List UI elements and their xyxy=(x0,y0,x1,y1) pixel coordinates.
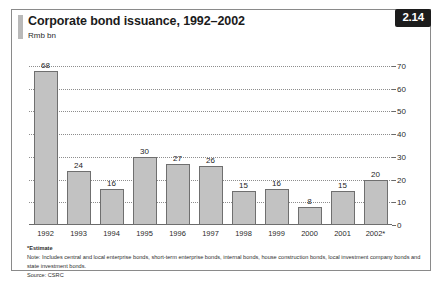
x-axis-ticks: 1992199319941995199619971998199920002001… xyxy=(29,229,392,238)
bar xyxy=(34,71,58,225)
bar xyxy=(100,189,124,225)
footnotes: *Estimate Note: Includes central and loc… xyxy=(27,244,422,280)
bar-value-label: 26 xyxy=(206,156,215,165)
page-title: Corporate bond issuance, 1992–2002 xyxy=(28,14,245,28)
y-tick-label: 0 xyxy=(397,221,401,230)
bar-group: 20 xyxy=(359,66,392,225)
bar-value-label: 24 xyxy=(74,161,83,170)
title-accent-bar xyxy=(18,15,23,39)
bar xyxy=(331,191,355,225)
x-tick-label: 1994 xyxy=(95,229,128,238)
bar-group: 16 xyxy=(260,66,293,225)
bar-group: 16 xyxy=(95,66,128,225)
x-tick-label: 1998 xyxy=(227,229,260,238)
bar xyxy=(232,191,256,225)
y-tick-mark xyxy=(392,89,396,90)
footnote-estimate: *Estimate xyxy=(27,244,422,253)
bar xyxy=(166,164,190,225)
bar-value-label: 27 xyxy=(173,154,182,163)
bar-group: 15 xyxy=(326,66,359,225)
bar-group: 27 xyxy=(161,66,194,225)
x-tick-label: 2002* xyxy=(359,229,392,238)
footnote-source: Source: CSRC xyxy=(27,271,422,280)
bar-value-label: 8 xyxy=(307,197,311,206)
y-tick-mark xyxy=(392,225,396,226)
bar-value-label: 15 xyxy=(239,181,248,190)
x-tick-label: 1992 xyxy=(29,229,62,238)
bar-value-label: 16 xyxy=(107,179,116,188)
bar xyxy=(364,180,388,225)
y-tick-label: 20 xyxy=(397,175,406,184)
y-tick-label: 40 xyxy=(397,130,406,139)
y-tick-mark xyxy=(392,202,396,203)
y-tick-label: 30 xyxy=(397,152,406,161)
bar-value-label: 30 xyxy=(140,147,149,156)
y-tick-label: 50 xyxy=(397,107,406,116)
figure-header: Corporate bond issuance, 1992–2002 Rmb b… xyxy=(12,10,430,50)
y-tick-label: 60 xyxy=(397,84,406,93)
bar-value-label: 15 xyxy=(338,181,347,190)
bar-group: 68 xyxy=(29,66,62,225)
x-tick-label: 1999 xyxy=(260,229,293,238)
bar xyxy=(199,166,223,225)
y-tick-label: 10 xyxy=(397,198,406,207)
bar-group: 26 xyxy=(194,66,227,225)
bar-group: 24 xyxy=(62,66,95,225)
bar-group: 8 xyxy=(293,66,326,225)
figure-number-badge: 2.14 xyxy=(395,9,431,27)
y-tick-mark xyxy=(392,180,396,181)
bar xyxy=(67,171,91,226)
bar xyxy=(133,157,157,225)
bar-series: 682416302726151681520 xyxy=(29,66,392,225)
bar-group: 15 xyxy=(227,66,260,225)
y-tick-mark xyxy=(392,66,396,67)
y-tick-mark xyxy=(392,111,396,112)
bar-value-label: 16 xyxy=(272,179,281,188)
bar xyxy=(265,189,289,225)
bar-value-label: 68 xyxy=(41,61,50,70)
chart-plot-area: 682416302726151681520 xyxy=(29,66,392,225)
x-tick-label: 1995 xyxy=(128,229,161,238)
y-tick-mark xyxy=(392,134,396,135)
x-tick-label: 1996 xyxy=(161,229,194,238)
x-tick-label: 2001 xyxy=(326,229,359,238)
x-tick-label: 2000 xyxy=(293,229,326,238)
units-subtitle: Rmb bn xyxy=(28,31,56,40)
x-tick-label: 1997 xyxy=(194,229,227,238)
y-tick-label: 70 xyxy=(397,62,406,71)
bar-value-label: 20 xyxy=(371,170,380,179)
footnote-note: Note: Includes central and local enterpr… xyxy=(27,253,422,271)
x-tick-label: 1993 xyxy=(62,229,95,238)
figure-panel: Corporate bond issuance, 1992–2002 Rmb b… xyxy=(11,9,431,271)
bar xyxy=(298,207,322,225)
y-tick-mark xyxy=(392,157,396,158)
bar-group: 30 xyxy=(128,66,161,225)
